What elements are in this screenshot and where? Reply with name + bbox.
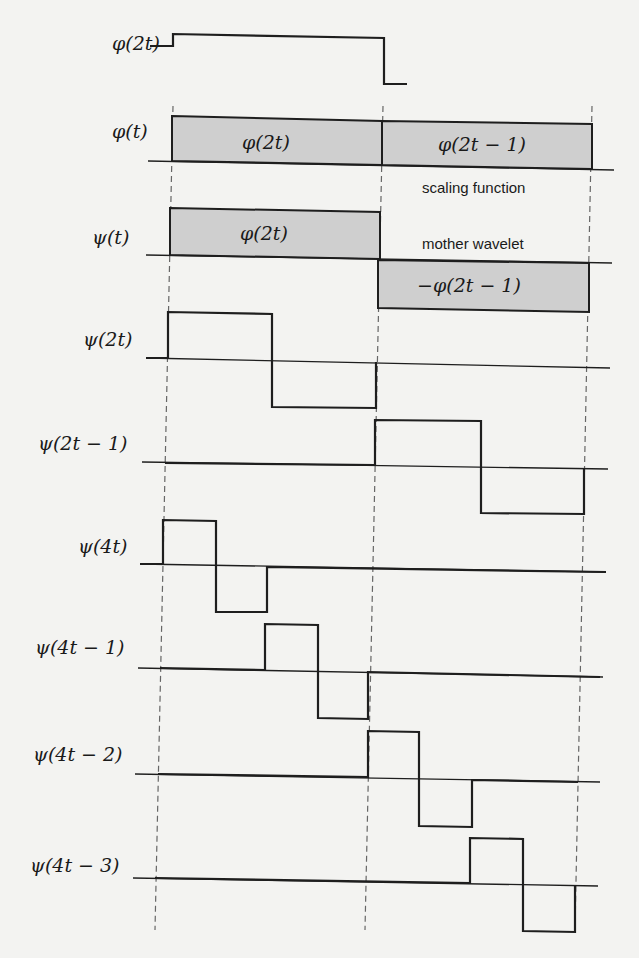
row-label: φ(t) <box>112 122 148 141</box>
dashed-guide-line <box>575 106 592 930</box>
scaling-function-caption: scaling function <box>422 180 525 195</box>
haar-wavelet-diagram: φ(2t)φ(t)φ(2t)φ(2t − 1)ψ(t)φ(2t)−φ(2t − … <box>0 0 639 958</box>
signal-path <box>160 624 600 719</box>
row-label: ψ(2t) <box>83 330 132 349</box>
waveform-phi-2t <box>150 34 407 84</box>
row-label: ψ(4t − 2) <box>33 745 123 764</box>
waveform-phi-t <box>148 116 614 170</box>
box-label: φ(2t − 1) <box>438 135 526 154</box>
waveform-psi-4t-1 <box>138 624 603 719</box>
row-label: ψ(4t) <box>78 537 127 556</box>
box-label: φ(2t) <box>240 224 288 243</box>
row-label: ψ(2t − 1) <box>38 434 128 453</box>
waveform-psi-t <box>146 208 612 312</box>
mother-wavelet-caption: mother wavelet <box>422 236 524 251</box>
row-label: φ(2t) <box>112 34 160 53</box>
box-label: φ(2t) <box>242 133 290 152</box>
signal-path <box>150 34 407 84</box>
row-label: ψ(t) <box>92 228 129 247</box>
box-label: −φ(2t − 1) <box>417 276 521 295</box>
waveform-canvas <box>0 0 639 958</box>
waveform-psi-4t-2 <box>135 731 600 827</box>
row-label: ψ(4t − 3) <box>30 856 120 875</box>
row-label: ψ(4t − 1) <box>35 638 125 657</box>
